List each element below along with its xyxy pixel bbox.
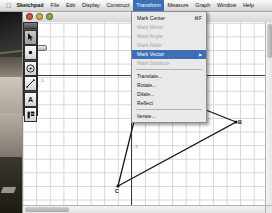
menu-separator-2 <box>136 109 202 110</box>
scrollbar-corner <box>265 205 272 213</box>
custom-tool[interactable] <box>24 107 37 122</box>
compass-circle-tool[interactable] <box>24 61 37 76</box>
menu-item-mark-center[interactable]: Mark Center ⌘F <box>132 14 206 23</box>
menu-item-mark-mirror: Mark Mirror <box>132 23 206 32</box>
photo-region-upper <box>0 57 22 77</box>
menu-item-label: Dilate... <box>137 91 154 97</box>
horizontal-scrollbar-thumb[interactable] <box>25 207 69 212</box>
vertical-scrollbar-thumb[interactable] <box>267 24 272 58</box>
menu-item-label: Mark Mirror <box>137 24 163 30</box>
menu-item-reflect[interactable]: Reflect <box>132 99 206 108</box>
menu-item-label: Translate... <box>137 73 162 79</box>
menu-item-mark-angle: Mark Angle <box>132 32 206 41</box>
submenu-arrow-icon: ▶ <box>199 52 202 57</box>
menu-item-label: Iterate... <box>137 113 156 119</box>
photo-region-mid <box>0 77 22 113</box>
menu-item-rotate[interactable]: Rotate... <box>132 81 206 90</box>
tool-palette[interactable]: A <box>23 22 38 116</box>
point-label-b: B <box>238 119 242 125</box>
straightedge-tool[interactable] <box>24 76 37 91</box>
vertical-scrollbar[interactable] <box>265 22 272 206</box>
menu-item-label: Mark Ratio <box>137 42 162 48</box>
photo-region-bottom <box>0 157 22 213</box>
menu-display[interactable]: Display <box>79 0 103 11</box>
menu-item-label: Mark Angle <box>137 33 162 39</box>
photo-region-lower <box>0 113 22 157</box>
palette-drag-handle[interactable] <box>24 23 37 29</box>
menu-transform[interactable]: Transform <box>133 0 164 11</box>
menu-measure[interactable]: Measure <box>164 0 192 11</box>
transform-dropdown-menu[interactable]: Mark Center ⌘F Mark Mirror Mark Angle Ma… <box>131 11 207 123</box>
menu-item-translate[interactable]: Translate... <box>132 72 206 81</box>
point-label-c: C <box>115 188 119 194</box>
menu-edit[interactable]: Edit <box>63 0 79 11</box>
menu-construct[interactable]: Construct <box>103 0 133 11</box>
zoom-button[interactable] <box>46 13 53 20</box>
menu-item-mark-ratio: Mark Ratio <box>132 41 206 50</box>
menu-item-label: Rotate... <box>137 82 156 88</box>
apple-icon[interactable]:  <box>4 1 13 10</box>
menu-graph[interactable]: Graph <box>192 0 214 11</box>
minimize-button[interactable] <box>36 13 43 20</box>
point-tool[interactable] <box>24 45 37 60</box>
menu-item-mark-vector[interactable]: Mark Vector ▶ <box>132 50 206 59</box>
menu-sketchpad[interactable]: Sketchpad <box>13 0 47 11</box>
menu-item-label: Mark Vector <box>137 51 164 57</box>
menu-item-label: Reflect <box>137 100 153 106</box>
horizontal-scrollbar[interactable] <box>23 205 266 213</box>
sketchpad-application: -5 5 5 -5 A B C D E <box>0 0 272 213</box>
text-tool[interactable]: A <box>24 92 37 107</box>
close-button[interactable] <box>26 13 33 20</box>
menu-item-iterate[interactable]: Iterate... <box>132 112 206 121</box>
menu-item-shortcut: ⌘F <box>194 16 202 21</box>
menu-item-label: Mark Center <box>137 15 165 21</box>
menu-separator-1 <box>136 69 202 70</box>
menu-item-mark-distance: Mark Distance <box>132 59 206 68</box>
menu-item-dilate[interactable]: Dilate... <box>132 90 206 99</box>
text-tool-glyph: A <box>28 96 33 103</box>
photo-glint <box>1 187 16 193</box>
menu-help[interactable]: Help <box>240 0 258 11</box>
menu-file[interactable]: File <box>47 0 62 11</box>
menu-item-label: Mark Distance <box>137 60 170 66</box>
menu-window[interactable]: Window <box>214 0 240 11</box>
background-photo-strip <box>0 11 22 213</box>
arrow-select-tool[interactable] <box>24 30 37 45</box>
